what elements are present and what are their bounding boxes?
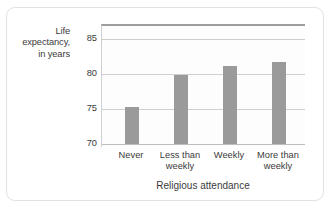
x-tick-label-more-than-weekly-line-1: More than	[251, 150, 305, 161]
x-tick-label-weekly: Weekly	[202, 150, 256, 161]
x-tick-label-less-than-weekly: Less than weekly	[153, 150, 207, 172]
y-axis-title-line-1: Life	[8, 26, 70, 37]
x-tick-label-never-line-1: Never	[104, 150, 158, 161]
x-axis-title: Religious attendance	[101, 180, 305, 191]
bar-more-than-weekly	[272, 62, 286, 144]
x-tick-label-less-than-weekly-line-1: Less than	[153, 150, 207, 161]
bar-series	[102, 26, 305, 147]
x-tick-label-more-than-weekly-line-2: weekly	[251, 161, 305, 172]
bar-weekly	[223, 66, 237, 144]
y-axis-title-line-3: in years	[8, 49, 70, 60]
plot-area	[101, 24, 305, 147]
x-tick-label-less-than-weekly-line-2: weekly	[153, 161, 207, 172]
y-tick-label-70: 70	[71, 138, 97, 148]
y-axis-title-line-2: expectancy,	[8, 37, 70, 48]
bar-never	[125, 107, 139, 144]
x-tick-label-never: Never	[104, 150, 158, 161]
y-tick-label-80: 80	[71, 68, 97, 78]
y-tick-label-85: 85	[71, 33, 97, 43]
bar-chart-figure: Life expectancy, in years 85 80 75 70 Ne…	[0, 0, 334, 214]
y-axis-title: Life expectancy, in years	[8, 26, 70, 60]
x-tick-label-more-than-weekly: More than weekly	[251, 150, 305, 172]
x-tick-label-weekly-line-1: Weekly	[202, 150, 256, 161]
y-tick-label-75: 75	[71, 103, 97, 113]
bar-less-than-weekly	[174, 75, 188, 144]
